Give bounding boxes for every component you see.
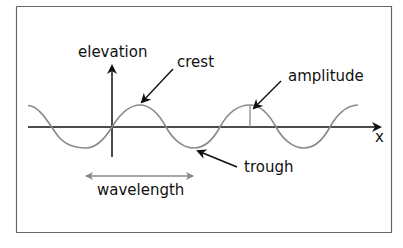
amplitude-pointer [254, 81, 281, 108]
amplitude-label: amplitude [288, 69, 364, 84]
crest-pointer [142, 69, 173, 102]
elevation-label: elevation [78, 45, 147, 60]
wave-diagram [0, 0, 403, 248]
x-axis-label: x [375, 130, 384, 145]
wavelength-label: wavelength [97, 183, 184, 198]
trough-pointer [198, 151, 237, 167]
trough-label: trough [244, 160, 293, 175]
crest-label: crest [177, 55, 214, 70]
